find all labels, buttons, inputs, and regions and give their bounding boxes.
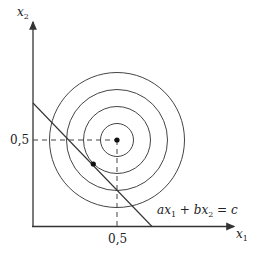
center-point [114, 137, 119, 142]
diagram: x2 x1 0,5 0,5 ax1 + bx2 = c [0, 0, 260, 256]
constraint-label: ax1 + bx2 = c [157, 203, 238, 219]
x-tick-label: 0,5 [108, 232, 127, 246]
x-axis-label: x1 [236, 227, 248, 243]
contour-diagram: x2 x1 0,5 0,5 ax1 + bx2 = c [0, 0, 260, 256]
tangent-point [91, 161, 96, 166]
y-tick-label: 0,5 [10, 133, 29, 147]
y-axis-label: x2 [17, 5, 29, 21]
